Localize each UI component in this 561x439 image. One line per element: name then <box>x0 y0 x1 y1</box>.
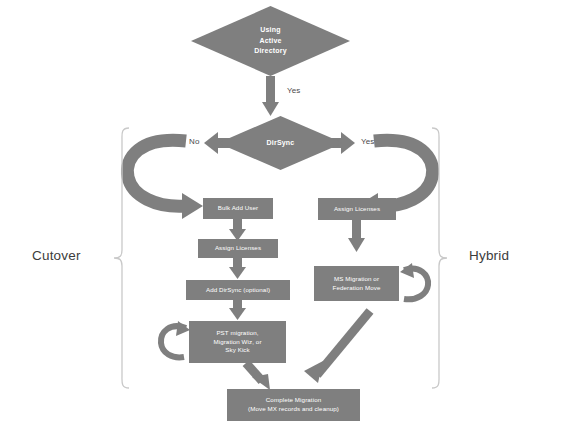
arrow-msmigration-to-complete <box>304 311 370 383</box>
edge-label-dirsync-yes: Yes <box>361 137 374 146</box>
node-add-dirsync-optional-label: Add DirSync (optional) <box>206 286 270 295</box>
dirsync-diamond-label: DirSync <box>267 138 295 149</box>
arrow-loop-cutover <box>127 140 203 219</box>
node-pst-migration-line2: Migration Wiz, or <box>213 338 261 347</box>
arrow-bulkadd-to-assign <box>229 219 246 241</box>
arrow-assignright-to-msmigration <box>348 220 365 252</box>
edge-label-dirsync-no: No <box>189 137 199 146</box>
bracket-label-hybrid: Hybrid <box>469 248 509 263</box>
root-diamond-line3: Directory <box>254 46 287 57</box>
arrow-root-to-dirsync <box>262 76 279 116</box>
node-pst-migration[interactable]: PST migration, Migration Wiz, or Sky Kic… <box>189 321 286 363</box>
node-complete-migration-line2: (Move MX records and cleanup) <box>248 405 339 414</box>
node-bulk-add-user[interactable]: Bulk Add User <box>203 198 273 219</box>
node-assign-licenses-hybrid[interactable]: Assign Licenses <box>318 198 396 220</box>
arrow-pst-to-complete <box>246 363 270 390</box>
flowchart-canvas: Using Active Directory Yes DirSync No Ye… <box>0 0 561 439</box>
arrow-loop-msmigration-repeat <box>400 263 428 299</box>
node-pst-migration-line1: PST migration, <box>216 329 258 338</box>
edge-label-root-yes: Yes <box>287 86 300 95</box>
node-pst-migration-line3: Sky Kick <box>225 346 250 355</box>
node-ms-migration[interactable]: MS Migration or Federation Move <box>314 266 399 301</box>
node-assign-licenses-cutover[interactable]: Assign Licenses <box>198 239 278 258</box>
node-ms-migration-line2: Federation Move <box>333 284 381 293</box>
diamond-dirsync: DirSync <box>218 116 343 170</box>
bracket-label-cutover: Cutover <box>32 248 81 263</box>
root-diamond-line2: Active <box>259 36 281 47</box>
node-complete-migration-line1: Complete Migration <box>266 396 321 405</box>
diamond-using-active-directory: Using Active Directory <box>191 6 350 76</box>
root-diamond-line1: Using <box>260 25 280 36</box>
node-add-dirsync-optional[interactable]: Add DirSync (optional) <box>186 280 290 300</box>
node-assign-licenses-hybrid-label: Assign Licenses <box>334 205 380 214</box>
node-assign-licenses-cutover-label: Assign Licenses <box>215 244 261 253</box>
node-complete-migration[interactable]: Complete Migration (Move MX records and … <box>227 389 360 421</box>
arrow-dirsync-to-pst <box>229 300 246 320</box>
node-ms-migration-line1: MS Migration or <box>334 275 379 284</box>
arrow-assign-to-dirsync <box>229 258 246 279</box>
node-bulk-add-user-label: Bulk Add User <box>218 204 259 213</box>
arrow-loop-pst-repeat <box>161 321 190 357</box>
